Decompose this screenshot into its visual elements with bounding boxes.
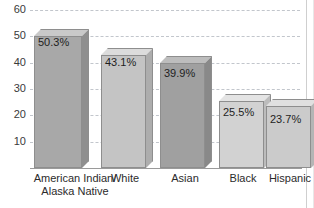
- bar-top-face: [101, 48, 153, 55]
- bar-side-face: [146, 48, 153, 168]
- axis-baseline: [30, 168, 302, 169]
- bar-top-face: [266, 99, 314, 106]
- bar-side-face: [311, 99, 314, 168]
- y-axis-tick-40: 40: [4, 57, 26, 68]
- bar-top-face: [34, 29, 89, 36]
- bar-top-face: [219, 94, 271, 101]
- category-label: Asian: [153, 172, 217, 185]
- category-label: Hispanic: [255, 172, 314, 185]
- category-label: White: [93, 172, 157, 185]
- bar-value-label: 25.5%: [223, 107, 254, 118]
- bar-side-face: [205, 56, 212, 168]
- y-axis-tick-30: 30: [4, 83, 26, 94]
- bar-side-face: [82, 29, 89, 168]
- bar-value-label: 23.7%: [270, 114, 301, 125]
- plot-area: 102030405060 50.3%43.1%39.9%25.5%23.7% A…: [0, 0, 314, 208]
- bar-value-label: 43.1%: [105, 57, 136, 68]
- y-axis-tick-20: 20: [4, 109, 26, 120]
- y-axis-tick-50: 50: [4, 30, 26, 41]
- bar-value-label: 39.9%: [164, 68, 195, 79]
- y-axis-tick-10: 10: [4, 136, 26, 147]
- gridline-60: [30, 10, 300, 11]
- bar-chart: 102030405060 50.3%43.1%39.9%25.5%23.7% A…: [0, 0, 314, 208]
- bar: [101, 55, 146, 168]
- bar-front-face: [101, 55, 146, 168]
- y-axis-tick-60: 60: [4, 4, 26, 15]
- bar-value-label: 50.3%: [38, 37, 69, 48]
- bar-front-face: [34, 36, 82, 168]
- bar: [34, 36, 82, 168]
